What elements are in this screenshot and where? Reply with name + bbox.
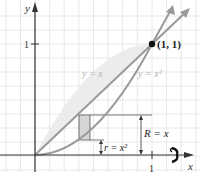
point-label: (1, 1) [157,38,181,51]
y-tick-label: 1 [24,39,29,50]
arrowhead-parabola [166,5,175,15]
y-axis-label: y [24,2,30,14]
outer-radius-arrowhead-bottom [139,150,143,155]
x-axis-label: x [187,160,193,172]
x-tick-label: 1 [149,163,154,174]
outer-radius-label: R = x [143,127,169,139]
inner-radius-label: r = x² [104,142,128,153]
x-axis-arrow [184,152,194,158]
line-label: y = x [81,68,103,79]
parabola-label: y = x² [137,68,163,79]
outer-radius-arrowhead-top [139,115,143,120]
y-axis-arrow [32,2,38,12]
washer-method-diagram: y x 1 1 (1, 1) y = x y = x² R = x r = x² [0,0,200,177]
intersection-point [149,41,155,47]
